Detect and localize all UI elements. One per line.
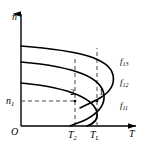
y-axis-label: n bbox=[12, 12, 17, 22]
curve-f13 bbox=[21, 46, 113, 108]
point-label-1: 1 bbox=[99, 88, 104, 97]
curve-label-f11-subscript: 11 bbox=[123, 105, 129, 111]
y-tick-subscript: 1 bbox=[11, 100, 14, 107]
operating-point-2-marker bbox=[74, 100, 77, 103]
curve-f12 bbox=[21, 62, 104, 126]
curve-label-f11: f11 bbox=[120, 101, 128, 110]
origin-label: O bbox=[11, 127, 18, 137]
operating-point-1-marker bbox=[96, 100, 99, 103]
x-tick1-subscript: 2 bbox=[74, 134, 77, 141]
speed-torque-figure: n T O n1 T2 TL f13 f12 f11 2 1 bbox=[0, 0, 145, 160]
curve-label-f13: f13 bbox=[120, 57, 129, 66]
x-axis-label: T bbox=[129, 129, 135, 139]
curve-label-f13-subscript: 13 bbox=[123, 61, 129, 67]
x-tick2-base: T bbox=[90, 129, 96, 140]
curve-label-f12-subscript: 12 bbox=[123, 82, 129, 88]
y-tick-label-n1: n1 bbox=[6, 96, 14, 106]
figure-caption bbox=[0, 148, 145, 160]
x-tick1-base: T bbox=[68, 129, 74, 140]
curve-label-f12: f12 bbox=[120, 78, 129, 87]
x-tick-label-t2: T2 bbox=[68, 130, 77, 140]
x-tick2-subscript: L bbox=[96, 134, 100, 141]
point-label-2: 2 bbox=[70, 88, 75, 97]
x-tick-label-tl: TL bbox=[90, 130, 99, 140]
